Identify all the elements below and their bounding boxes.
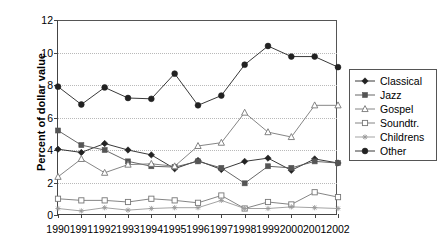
data-point-open-square (362, 120, 367, 125)
data-point-filled-circle (78, 102, 84, 108)
x-axis-tick-label: 1992 (93, 223, 116, 235)
data-point-filled-circle (125, 95, 131, 101)
legend-label: Classical (377, 75, 422, 87)
x-axis-tick-label: 1994 (140, 223, 163, 235)
legend-label: Other (377, 145, 406, 157)
data-point-filled-diamond (265, 155, 271, 161)
y-axis-tick-label: 8 (47, 79, 53, 91)
data-point-star (219, 198, 224, 203)
data-point-filled-circle (335, 64, 341, 70)
y-axis-tick-label: 0 (47, 209, 53, 221)
data-point-open-triangle (265, 129, 271, 135)
x-axis-tick-label: 2002 (326, 223, 349, 235)
legend-item-classical[interactable]: Classical (353, 74, 433, 88)
data-point-star (195, 205, 200, 210)
y-axis-tick-label: 2 (47, 177, 53, 189)
legend-label: Soundtr. (377, 117, 419, 129)
data-point-open-square (265, 199, 270, 204)
data-point-open-triangle (78, 156, 84, 162)
series-line (58, 105, 338, 177)
data-point-filled-square (196, 159, 201, 164)
data-point-filled-square (312, 159, 317, 164)
x-axis-tick-label: 1998 (233, 223, 256, 235)
data-point-filled-square (219, 165, 224, 170)
data-point-filled-circle (242, 62, 248, 68)
legend-item-jazz[interactable]: Jazz (353, 88, 433, 102)
data-point-star (335, 206, 340, 211)
data-point-open-square (312, 190, 317, 195)
data-point-open-triangle (242, 109, 248, 115)
data-point-filled-diamond (148, 152, 154, 158)
data-point-star (265, 206, 270, 211)
legend-label: Gospel (377, 103, 413, 115)
data-point-star (149, 206, 154, 211)
data-point-filled-square (79, 143, 84, 148)
y-axis-tick-label: 10 (41, 47, 53, 59)
data-point-filled-square (266, 164, 271, 169)
legend: ClassicalJazzGospelSoundtr.ChildrensOthe… (349, 69, 437, 161)
data-point-filled-diamond (101, 140, 107, 146)
x-axis-tick-mark (338, 214, 339, 218)
legend-marker-filled-square-icon (353, 88, 377, 102)
data-point-filled-circle (102, 85, 108, 91)
legend-label: Childrens (377, 131, 424, 143)
data-point-open-triangle (55, 173, 61, 179)
x-axis-tick-label: 1997 (210, 223, 233, 235)
data-point-filled-square (289, 165, 294, 170)
data-point-filled-diamond (362, 78, 368, 84)
data-point-star (242, 206, 247, 211)
legend-item-gospel[interactable]: Gospel (353, 102, 433, 116)
x-axis-tick-label: 1995 (163, 223, 186, 235)
x-axis-tick-label: 2000 (280, 223, 303, 235)
legend-label: Jazz (377, 89, 402, 101)
legend-item-childrens[interactable]: Childrens (353, 130, 433, 144)
data-point-filled-diamond (55, 146, 61, 152)
x-axis-tick-label: 1996 (186, 223, 209, 235)
data-point-open-square (172, 198, 177, 203)
data-point-star (362, 134, 367, 139)
data-point-open-square (125, 199, 130, 204)
data-point-filled-square (56, 128, 61, 133)
legend-marker-open-square-icon (353, 116, 377, 130)
x-axis-tick-label: 1990 (46, 223, 69, 235)
data-point-filled-diamond (241, 158, 247, 164)
data-point-filled-square (242, 181, 247, 186)
data-point-open-square (219, 193, 224, 198)
data-point-filled-diamond (125, 147, 131, 153)
chart-figure: Percent of dollar value 024681012 199019… (0, 0, 446, 248)
series-other (55, 43, 341, 108)
series-jazz (56, 128, 341, 186)
data-point-open-square (79, 198, 84, 203)
legend-marker-star-icon (353, 130, 377, 144)
data-point-filled-square (102, 148, 107, 153)
data-point-star (289, 204, 294, 209)
y-axis-tick-label: 6 (47, 112, 53, 124)
data-point-open-square (335, 195, 340, 200)
data-point-star (312, 205, 317, 210)
series-line (58, 46, 338, 105)
x-axis-tick-label: 2001 (303, 223, 326, 235)
series-line (58, 131, 338, 184)
data-point-filled-circle (172, 71, 178, 77)
data-point-filled-circle (195, 102, 201, 108)
data-point-star (102, 205, 107, 210)
data-point-star (172, 205, 177, 210)
data-point-open-square (102, 198, 107, 203)
legend-marker-filled-circle-icon (353, 144, 377, 158)
legend-marker-filled-diamond-icon (353, 74, 377, 88)
legend-item-other[interactable]: Other (353, 144, 433, 158)
data-point-filled-circle (288, 54, 294, 60)
data-point-filled-square (336, 161, 341, 166)
series-gospel (55, 102, 341, 179)
series-layer (58, 20, 338, 215)
x-axis-tick-label: 1999 (256, 223, 279, 235)
data-point-open-square (55, 196, 60, 201)
data-point-filled-circle (362, 148, 368, 154)
legend-item-soundtr[interactable]: Soundtr. (353, 116, 433, 130)
data-point-star (55, 206, 60, 211)
data-point-open-square (149, 196, 154, 201)
data-point-star (79, 208, 84, 213)
data-point-filled-square (363, 93, 368, 98)
plot-area: 024681012 199019911992199319941995199619… (57, 20, 337, 215)
data-point-filled-circle (312, 54, 318, 60)
